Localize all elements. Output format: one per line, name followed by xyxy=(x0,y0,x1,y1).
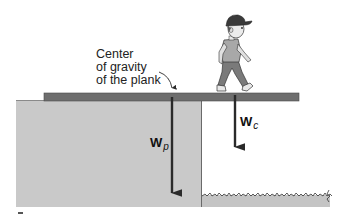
child-weight-subscript: c xyxy=(253,120,258,131)
child-figure xyxy=(217,15,253,91)
child-weight-label: Wc xyxy=(240,114,258,131)
plank-weight-subscript: p xyxy=(163,141,169,152)
annotation-label: Center of gravity of the plank xyxy=(96,48,161,87)
footnote-mark xyxy=(18,212,23,214)
plank-weight-symbol: W xyxy=(150,135,162,150)
ground-grass xyxy=(202,190,332,207)
plank-diagram xyxy=(0,0,346,217)
annotation-line-3: of the plank xyxy=(96,74,161,87)
child-weight-symbol: W xyxy=(240,114,252,129)
cliff-block xyxy=(16,100,202,207)
plank-weight-label: Wp xyxy=(150,135,169,152)
